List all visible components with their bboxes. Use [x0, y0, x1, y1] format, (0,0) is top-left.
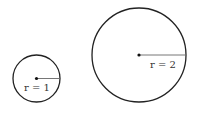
- large-center-dot: [137, 53, 140, 56]
- large-circle-group: r = 2: [92, 8, 186, 102]
- small-radius-label: r = 1: [24, 82, 50, 93]
- circles-diagram: r = 1 r = 2: [0, 0, 197, 113]
- small-circle-group: r = 1: [13, 55, 60, 102]
- large-radius-label: r = 2: [150, 59, 176, 70]
- small-center-dot: [35, 77, 38, 80]
